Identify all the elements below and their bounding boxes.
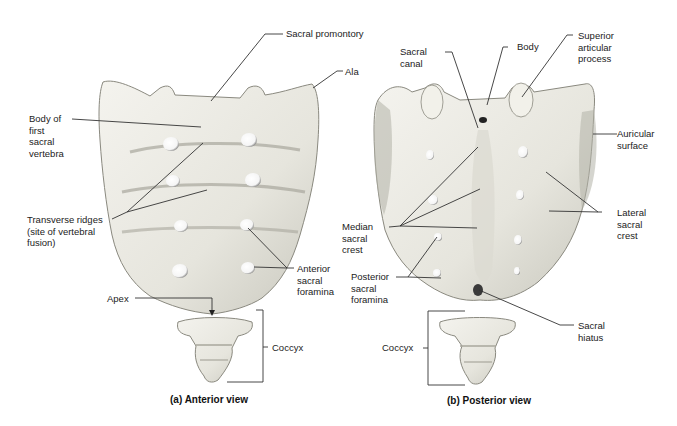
- posterior-coccyx: [440, 318, 516, 385]
- label-lateral-sacral-crest: Lateral sacral crest: [617, 207, 646, 242]
- label-median-sacral-crest: Median sacral crest: [342, 221, 373, 256]
- label-coccyx-anterior: Coccyx: [272, 342, 303, 354]
- label-coccyx-posterior: Coccyx: [382, 342, 413, 354]
- label-body-of-first-sacral-vertebra: Body of first sacral vertebra: [29, 113, 64, 159]
- label-body: Body: [517, 41, 539, 53]
- posterior-sacrum: [374, 83, 597, 300]
- caption-anterior-view: (a) Anterior view: [170, 394, 248, 405]
- label-superior-articular-process: Superior articular process: [578, 30, 614, 65]
- label-sacral-promontory: Sacral promontory: [286, 28, 364, 40]
- bone-illustration: [0, 0, 677, 426]
- label-anterior-sacral-foramina: Anterior sacral foramina: [297, 263, 334, 298]
- anterior-coccyx: [178, 318, 253, 383]
- label-ala: Ala: [345, 66, 359, 78]
- label-sacral-hiatus: Sacral hiatus: [578, 320, 605, 343]
- label-auricular-surface: Auricular surface: [617, 128, 655, 151]
- label-transverse-ridges: Transverse ridges (site of vertebral fus…: [27, 214, 103, 249]
- anterior-sacrum: [99, 81, 319, 314]
- label-posterior-sacral-foramina: Posterior sacral foramina: [351, 271, 389, 306]
- label-apex: Apex: [107, 293, 129, 305]
- sacrum-coccyx-diagram: Sacral promontory Ala Body of first sacr…: [0, 0, 677, 426]
- label-sacral-canal: Sacral canal: [400, 46, 427, 69]
- caption-posterior-view: (b) Posterior view: [447, 395, 531, 406]
